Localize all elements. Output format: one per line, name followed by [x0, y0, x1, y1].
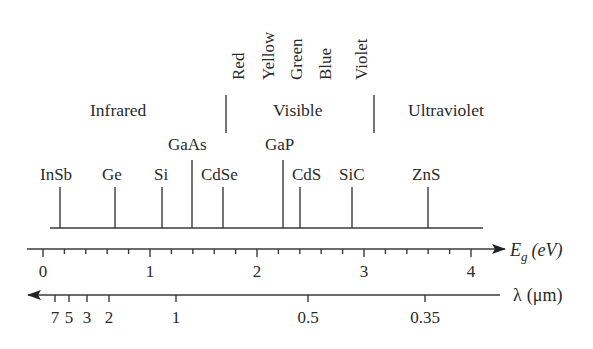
material-label-zns: ZnS: [412, 165, 440, 184]
material-label-si: Si: [154, 165, 168, 184]
wavelength-tick-2: 2: [105, 308, 114, 327]
material-label-gap: GaP: [265, 135, 294, 154]
energy-tick-4: 4: [467, 262, 476, 281]
material-label-ge: Ge: [102, 165, 122, 184]
energy-tick-1: 1: [146, 262, 155, 281]
color-label-yellow: Yellow: [259, 31, 278, 80]
region-label-infrared: Infrared: [90, 100, 147, 120]
energy-tick-3: 3: [360, 262, 369, 281]
material-label-insb: InSb: [40, 165, 72, 184]
material-label-cdse: CdSe: [201, 165, 238, 184]
region-label-ultraviolet: Ultraviolet: [408, 100, 484, 120]
color-label-red: Red: [229, 52, 248, 80]
wavelength-tick-5: 5: [65, 308, 74, 327]
energy-tick-0: 0: [39, 262, 48, 281]
material-label-sic: SiC: [339, 165, 365, 184]
material-label-cds: CdS: [292, 165, 321, 184]
wavelength-tick-7: 7: [51, 308, 60, 327]
wavelength-axis-title: λ(μm): [513, 285, 562, 306]
color-label-blue: Blue: [316, 48, 335, 80]
wavelength-tick-1: 1: [172, 308, 181, 327]
wavelength-tick-3: 3: [83, 308, 92, 327]
energy-axis-title: Eg(eV): [509, 240, 562, 264]
wavelength-axis: 7 5 3 2 1 0.5 0.35 λ(μm): [28, 285, 562, 327]
color-label-green: Green: [287, 38, 306, 80]
energy-tick-2: 2: [253, 262, 262, 281]
material-labels: InSb Ge Si GaAs CdSe GaP CdS SiC ZnS: [40, 135, 440, 184]
material-label-gaas: GaAs: [168, 135, 207, 154]
bandgap-diagram: Red Yellow Green Blue Violet Infrared Vi…: [0, 0, 593, 349]
energy-axis: 0 1 2 3 4 Eg(eV): [27, 240, 562, 281]
color-label-violet: Violet: [352, 38, 371, 80]
color-labels: Red Yellow Green Blue Violet: [229, 31, 371, 80]
region-label-visible: Visible: [273, 100, 323, 120]
wavelength-tick-0-5: 0.5: [297, 308, 318, 327]
wavelength-tick-0-35: 0.35: [410, 308, 440, 327]
